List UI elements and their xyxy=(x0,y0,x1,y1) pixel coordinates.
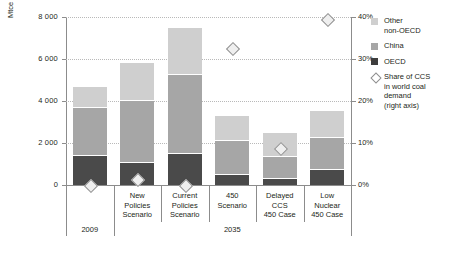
y-axis-tick xyxy=(62,59,66,60)
x-axis-category-label: 450Scenario xyxy=(209,191,257,210)
x-axis-category-label-line: Current xyxy=(161,191,209,201)
legend-swatch-other xyxy=(371,18,378,25)
gridline xyxy=(66,101,351,102)
bar-stack xyxy=(168,17,202,185)
legend-label-line: in world coal xyxy=(384,82,466,92)
x-axis-category-label-line: Scenario xyxy=(209,201,257,211)
y-axis-unit-label: Mtce xyxy=(6,2,15,18)
y2-axis-tick xyxy=(352,143,356,144)
category-separator xyxy=(351,186,352,222)
x-axis-category-label-line: Scenario xyxy=(161,210,209,220)
category-separator xyxy=(161,186,162,222)
bar-segment-china xyxy=(310,138,344,170)
legend-item: Share of CCSin world coaldemand(right ax… xyxy=(371,72,466,110)
plot-area xyxy=(66,17,351,185)
y-axis-tick-label: 0 xyxy=(24,180,58,189)
year-group-separator xyxy=(351,222,352,236)
x-axis-category-label-line: 450 Case xyxy=(304,210,352,220)
gridline xyxy=(66,17,351,18)
legend-item: Othernon-OECD xyxy=(371,16,466,35)
legend-item: OECD xyxy=(371,57,466,67)
bar-segment-other-non-oecd xyxy=(310,111,344,138)
legend-swatch-oecd xyxy=(371,58,378,65)
bar-stack xyxy=(263,17,297,185)
y-axis-tick-label: 4 000 xyxy=(24,96,58,105)
year-group-label-2035: 2035 xyxy=(114,225,352,234)
x-axis-category-label-line: CCS xyxy=(256,201,304,211)
legend-label-line: Share of CCS xyxy=(384,72,466,82)
legend-label-line: China xyxy=(384,41,466,51)
x-axis-category-label-line: 450 Case xyxy=(256,210,304,220)
bar-segment-other-non-oecd xyxy=(215,116,249,141)
x-axis-category-label-line: Policies xyxy=(161,201,209,211)
y2-axis-tick-label: 0% xyxy=(358,180,388,189)
category-separator xyxy=(66,186,67,222)
x-axis-category-label: DelayedCCS450 Case xyxy=(256,191,304,220)
bar-segment-oecd xyxy=(310,170,344,185)
bar-stack xyxy=(310,17,344,185)
bar-stack xyxy=(73,17,107,185)
legend-diamond-icon xyxy=(370,72,381,83)
legend-label-line: OECD xyxy=(384,57,466,67)
x-axis-category-label-line: Delayed xyxy=(256,191,304,201)
y-axis-tick-label: 8 000 xyxy=(24,12,58,21)
legend-label-line: non-OECD xyxy=(384,26,466,36)
x-axis-category-label-line: 450 xyxy=(209,191,257,201)
chart-legend: Othernon-OECDChinaOECDShare of CCSin wor… xyxy=(371,16,466,116)
y2-axis-tick xyxy=(352,17,356,18)
x-axis-category-label-line: Nuclear xyxy=(304,201,352,211)
gridline xyxy=(66,143,351,144)
category-separator xyxy=(256,186,257,222)
y2-axis-tick xyxy=(352,101,356,102)
legend-label-line: demand xyxy=(384,91,466,101)
y-axis-tick xyxy=(62,17,66,18)
x-axis-category-label-line: Low xyxy=(304,191,352,201)
legend-label-line: Other xyxy=(384,16,466,26)
bar-segment-other-non-oecd xyxy=(168,28,202,75)
x-axis-category-label: LowNuclear450 Case xyxy=(304,191,352,220)
x-axis-category-label-line: Policies xyxy=(114,201,162,211)
bar-segment-oecd xyxy=(215,175,249,185)
bar-segment-other-non-oecd xyxy=(73,87,107,108)
bar-segment-china xyxy=(263,157,297,179)
y-axis-tick xyxy=(62,143,66,144)
legend-swatch-china xyxy=(371,43,378,50)
category-separator xyxy=(304,186,305,222)
bar-segment-china xyxy=(73,108,107,156)
y-axis-tick-label: 2 000 xyxy=(24,138,58,147)
legend-item: China xyxy=(371,41,466,51)
x-axis-category-label-line: Scenario xyxy=(114,210,162,220)
bar-segment-other-non-oecd xyxy=(120,63,154,101)
bar-segment-china xyxy=(215,141,249,175)
y-axis-tick-label: 6 000 xyxy=(24,54,58,63)
y2-axis-tick-label: 10% xyxy=(358,138,388,147)
category-separator xyxy=(209,186,210,222)
bar-segment-oecd xyxy=(263,179,297,185)
category-separator xyxy=(114,186,115,222)
bar-stack xyxy=(120,17,154,185)
bar-segment-china xyxy=(168,75,202,154)
y2-axis-tick xyxy=(352,59,356,60)
chart-figure: Mtce 02 0004 0006 0008 000 0%10%20%30%40… xyxy=(0,0,468,259)
x-axis-category-label: NewPoliciesScenario xyxy=(114,191,162,220)
x-axis-category-label: CurrentPoliciesScenario xyxy=(161,191,209,220)
legend-label-line: (right axis) xyxy=(384,101,466,111)
year-group-label-2009: 2009 xyxy=(66,225,114,234)
gridline xyxy=(66,59,351,60)
y-axis-tick xyxy=(62,101,66,102)
bar-segment-china xyxy=(120,101,154,163)
y2-axis-tick xyxy=(352,185,356,186)
x-axis-category-label-line: New xyxy=(114,191,162,201)
